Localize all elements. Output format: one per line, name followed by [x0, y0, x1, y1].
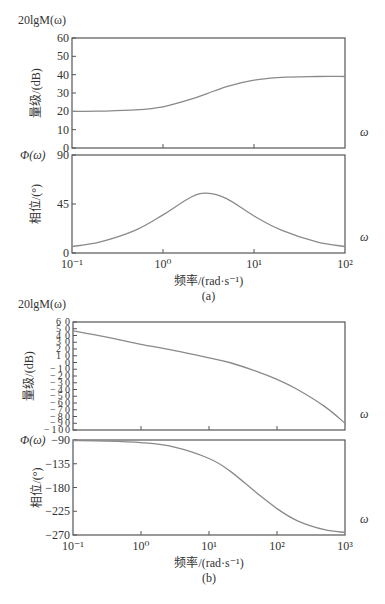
panel-a-phase-y-axis-label: 相位/(°): [28, 184, 43, 224]
panel-b-magnitude-curve: [73, 331, 345, 424]
panel-a-magnitude-y-tick-label: 50: [57, 49, 69, 63]
panel-b-phase-x-tick-label: 10²: [269, 539, 285, 553]
panel-b-phase-corner-label: Φ(ω): [20, 433, 46, 447]
panel-a-phase-corner-label: Φ(ω): [20, 148, 46, 162]
panel-b-phase-omega-label: ω: [360, 512, 368, 526]
panel-a-x-axis-label: 频率/(rad·s⁻¹): [174, 273, 243, 288]
panel-a-phase-x-tick-label: 10²: [337, 257, 353, 271]
panel-a-phase-x-tick-label: 10⁻¹: [61, 257, 83, 271]
panel-b-phase-curve: [73, 441, 345, 533]
panel-b-magnitude-corner-label: 20lgM(ω): [18, 297, 66, 311]
panel-a-phase-y-tick-label: 45: [57, 197, 69, 211]
panel-a-magnitude-y-tick-label: 10: [57, 123, 69, 137]
panel-b-phase-frame: [73, 440, 345, 535]
panel-b-phase-y-tick-label: −225: [45, 504, 70, 518]
panel-b-phase-y-tick-label: −135: [45, 457, 70, 471]
panel-b-phase-y-tick-label: −90: [51, 433, 70, 447]
panel-a-phase-curve: [72, 193, 345, 246]
panel-b-magnitude-omega-label: ω: [360, 407, 368, 421]
panel-b-phase-y-tick-label: −180: [45, 481, 70, 495]
panel-a-magnitude-y-tick-label: 40: [57, 68, 69, 82]
panel-a-magnitude-curve: [72, 76, 345, 111]
panel-a-magnitude-y-axis-label: 量级/(dB): [29, 68, 43, 117]
panel-a-phase-x-tick-label: 10¹: [246, 257, 262, 271]
panel-b-magnitude-y-axis-label: 量级/(dB): [22, 351, 36, 400]
panel-b-phase-x-tick-label: 10⁰: [133, 539, 150, 553]
panel-b-caption: (b): [202, 571, 216, 585]
bode-plots: 0102030405060ω量级/(dB)20lgM(ω)04590ω相位/(°…: [0, 0, 385, 604]
panel-a-phase-x-tick-label: 10⁰: [155, 257, 172, 271]
panel-a-phase-y-tick-label: 90: [57, 148, 69, 162]
panel-a-magnitude-omega-label: ω: [360, 125, 368, 139]
panel-a-phase-omega-label: ω: [360, 230, 368, 244]
panel-b-phase-x-tick-label: 10¹: [201, 539, 217, 553]
panel-a-magnitude-y-tick-label: 30: [57, 86, 69, 100]
panel-a-caption: (a): [202, 289, 215, 303]
panel-a-magnitude-y-tick-label: 60: [57, 31, 69, 45]
panel-b-x-axis-label: 频率/(rad·s⁻¹): [174, 555, 243, 570]
panel-a-magnitude-corner-label: 20lgM(ω): [18, 13, 66, 27]
panel-b-phase-x-tick-label: 10³: [337, 539, 353, 553]
panel-a-magnitude-y-tick-label: 20: [57, 104, 69, 118]
panel-b-magnitude-y-tick-label: 60: [56, 316, 70, 327]
panel-b-phase-y-axis-label: 相位/(°): [29, 467, 44, 507]
panel-b-phase-x-tick-label: 10⁻¹: [62, 539, 84, 553]
